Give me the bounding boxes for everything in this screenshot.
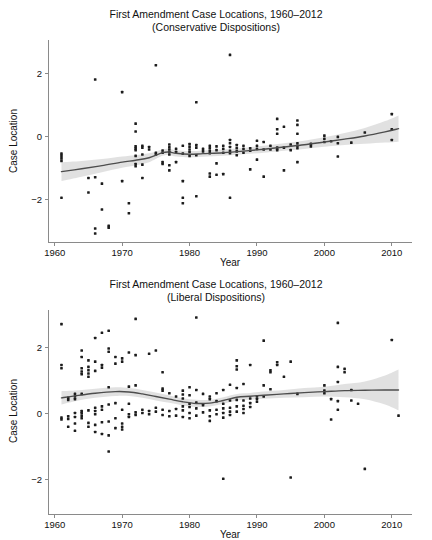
data-point <box>195 195 198 198</box>
data-point <box>222 389 225 392</box>
data-point <box>337 366 340 369</box>
data-point <box>323 134 326 137</box>
data-point <box>215 413 218 416</box>
data-point <box>80 356 83 359</box>
data-point <box>323 384 326 387</box>
data-point <box>60 418 63 421</box>
data-point <box>94 413 97 416</box>
data-point <box>364 131 367 134</box>
data-point <box>134 149 137 152</box>
data-point <box>229 146 232 149</box>
data-point <box>87 191 90 194</box>
data-point <box>87 369 90 372</box>
data-point <box>74 412 77 415</box>
data-point <box>222 402 225 405</box>
y-tick-label: −2 <box>31 194 42 205</box>
data-point <box>121 180 124 183</box>
data-point <box>175 408 178 411</box>
data-point <box>94 431 97 434</box>
data-point <box>101 364 104 367</box>
data-point <box>215 392 218 395</box>
data-point <box>80 349 83 352</box>
data-point <box>195 146 198 149</box>
data-point <box>208 398 211 401</box>
data-point <box>229 197 232 200</box>
data-point <box>390 339 393 342</box>
data-point <box>235 147 238 150</box>
data-point <box>256 139 259 142</box>
data-point <box>195 407 198 410</box>
data-point <box>101 405 104 408</box>
data-point <box>94 337 97 340</box>
data-point <box>134 354 137 357</box>
data-point <box>364 468 367 471</box>
data-point <box>202 411 205 414</box>
data-point <box>94 227 97 230</box>
data-point <box>67 415 70 418</box>
data-point <box>323 137 326 140</box>
x-tick-label: 1970 <box>112 247 133 258</box>
data-point <box>168 148 171 151</box>
data-point <box>161 389 164 392</box>
x-tick-label: 1990 <box>246 519 267 530</box>
data-point <box>121 91 124 94</box>
data-point <box>107 386 110 389</box>
data-point <box>195 316 198 319</box>
data-point <box>242 404 245 407</box>
data-point <box>262 141 265 144</box>
data-point <box>222 148 225 151</box>
data-point <box>229 54 232 57</box>
data-point <box>94 370 97 373</box>
y-axis-title: Case Location <box>8 379 19 443</box>
data-point <box>188 148 191 151</box>
data-point <box>296 119 299 122</box>
figure-canvas: First Amendment Case Locations, 1960–201… <box>0 0 432 540</box>
data-point <box>94 424 97 427</box>
data-point <box>148 146 151 149</box>
data-point <box>175 414 178 417</box>
data-point <box>229 139 232 142</box>
data-point <box>235 387 238 390</box>
x-tick-label: 1960 <box>44 247 65 258</box>
data-point <box>222 173 225 176</box>
data-point <box>60 160 63 163</box>
x-axis-title: Year <box>220 529 241 540</box>
data-point <box>235 144 238 147</box>
data-point <box>168 164 171 167</box>
data-point <box>283 375 286 378</box>
data-point <box>229 142 232 145</box>
liberal-scatter-plot: First Amendment Case Locations, 1960–201… <box>0 270 432 540</box>
plot-area-liberal: 19601970198019902000201020−2 <box>31 310 412 530</box>
data-point <box>148 413 151 416</box>
data-point <box>188 406 191 409</box>
data-point <box>182 144 185 147</box>
data-point <box>141 408 144 411</box>
chart-title-line1: First Amendment Case Locations, 1960–201… <box>109 278 322 290</box>
data-point <box>114 417 117 420</box>
data-point <box>101 433 104 436</box>
data-point <box>148 352 151 355</box>
data-point <box>134 155 137 158</box>
chart-title-line2: (Liberal Dispositions) <box>167 291 265 303</box>
data-point <box>182 393 185 396</box>
data-point <box>155 64 158 67</box>
data-point <box>121 422 124 425</box>
data-point <box>249 402 252 405</box>
x-tick-label: 2010 <box>381 519 402 530</box>
data-point <box>229 410 232 413</box>
data-point <box>188 145 191 148</box>
data-point <box>195 414 198 417</box>
data-point <box>289 476 292 479</box>
data-point <box>161 163 164 166</box>
data-point <box>289 143 292 146</box>
data-point <box>128 351 131 354</box>
data-point <box>134 122 137 125</box>
data-point <box>60 323 63 326</box>
data-point <box>67 399 70 402</box>
data-point <box>235 399 238 402</box>
data-point <box>107 434 110 437</box>
data-point <box>80 417 83 420</box>
data-point <box>74 416 77 419</box>
data-point <box>155 406 158 409</box>
data-point <box>134 414 137 417</box>
